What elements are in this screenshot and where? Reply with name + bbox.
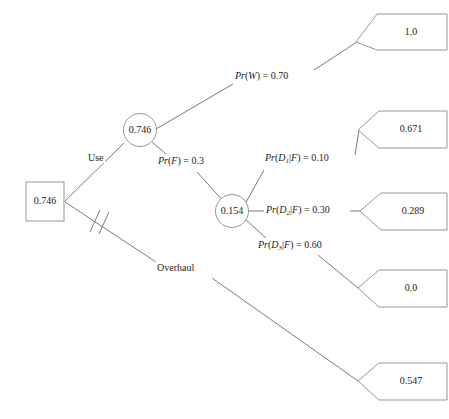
- edge-f-to-d3-upper: [245, 219, 266, 238]
- pr-d1-fn: Pr: [265, 152, 275, 163]
- branch-label-pr-d3: Pr(D3|F) = 0.60: [257, 239, 323, 252]
- branch-label-pr-f: Pr(F) = 0.3: [157, 155, 205, 166]
- chance-node-failure-value: 0.154: [221, 205, 244, 216]
- edge-f-to-d1-upper: [355, 130, 359, 155]
- branch-label-pr-d2: Pr(D2|F) = 0.30: [265, 204, 331, 217]
- branch-label-overhaul: Overhaul: [156, 262, 195, 273]
- terminal-node-payoff-d3[interactable]: [358, 270, 447, 307]
- pr-d3-eq: = 0.60: [294, 239, 322, 250]
- pr-d3-fn: Pr: [258, 239, 268, 250]
- branch-label-use: Use: [87, 152, 105, 163]
- edge-use-to-w-lower: [156, 84, 233, 129]
- edge-f-to-d3-lower: [318, 255, 358, 288]
- pr-w-eq: = 0.70: [260, 70, 288, 81]
- pr-d1-eq: = 0.10: [301, 152, 329, 163]
- terminal-value-payoff-d2: 0.289: [402, 205, 425, 216]
- decision-tree-diagram: 1.0 0.671 0.289 0.0 0.547 0.746 0.154 0.…: [0, 0, 449, 419]
- terminal-value-payoff-w: 1.0: [405, 26, 418, 37]
- edge-root-to-overhaul: [65, 202, 156, 262]
- tree-canvas: 1.0 0.671 0.289 0.0 0.547 0.746 0.154 0.…: [0, 0, 449, 419]
- terminal-node-payoff-w[interactable]: [356, 14, 447, 50]
- edge-use-to-w-upper: [314, 42, 357, 70]
- chance-node-use-value: 0.746: [129, 124, 152, 135]
- edge-overhaul-lower: [212, 278, 358, 381]
- pr-d3-arg: D: [271, 239, 278, 250]
- terminal-value-payoff-d1: 0.671: [400, 123, 423, 134]
- pr-w-fn: Pr: [235, 70, 245, 81]
- prune-slash-1: [90, 210, 100, 232]
- terminal-value-payoff-overhaul: 0.547: [400, 375, 423, 386]
- prune-slash-2: [99, 212, 109, 234]
- edge-f-to-d1-lower: [245, 170, 264, 204]
- root-decision-node-value: 0.746: [34, 195, 57, 206]
- pr-d2-fn: Pr: [266, 204, 276, 215]
- branch-label-pr-w: Pr(W) = 0.70: [234, 70, 289, 81]
- pr-d1-arg: D: [278, 152, 285, 163]
- pr-d2-arg: D: [279, 204, 286, 215]
- pr-w-arg: W: [248, 70, 256, 81]
- pr-d2-eq: = 0.30: [302, 204, 330, 215]
- pr-f-fn: Pr: [158, 155, 168, 166]
- branch-label-pr-d1: Pr(D1|F) = 0.10: [264, 152, 330, 165]
- pr-f-eq: = 0.3: [181, 155, 204, 166]
- terminal-value-payoff-d3: 0.0: [405, 282, 418, 293]
- edge-use-to-f-upper: [152, 142, 166, 154]
